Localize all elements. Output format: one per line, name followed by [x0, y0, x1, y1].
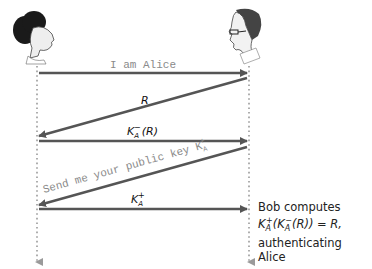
- woman-head-icon: [13, 11, 54, 64]
- note-line-2: KA+(KA−(R)) = R,: [258, 214, 372, 236]
- note-line-3: authenticating Alice: [258, 236, 372, 264]
- message-label-5: KA+: [131, 191, 145, 208]
- message-label-2: R: [141, 94, 149, 107]
- message-label-1: I am Alice: [110, 59, 176, 71]
- message-label-4: Send me your public key KA+: [41, 136, 209, 198]
- bob-computation-note: Bob computes KA+(KA−(R)) = R, authentica…: [258, 200, 372, 264]
- message-label-3: KA−(R): [127, 123, 158, 140]
- man-with-glasses-head-icon: [229, 9, 261, 64]
- note-line-1: Bob computes: [258, 200, 372, 214]
